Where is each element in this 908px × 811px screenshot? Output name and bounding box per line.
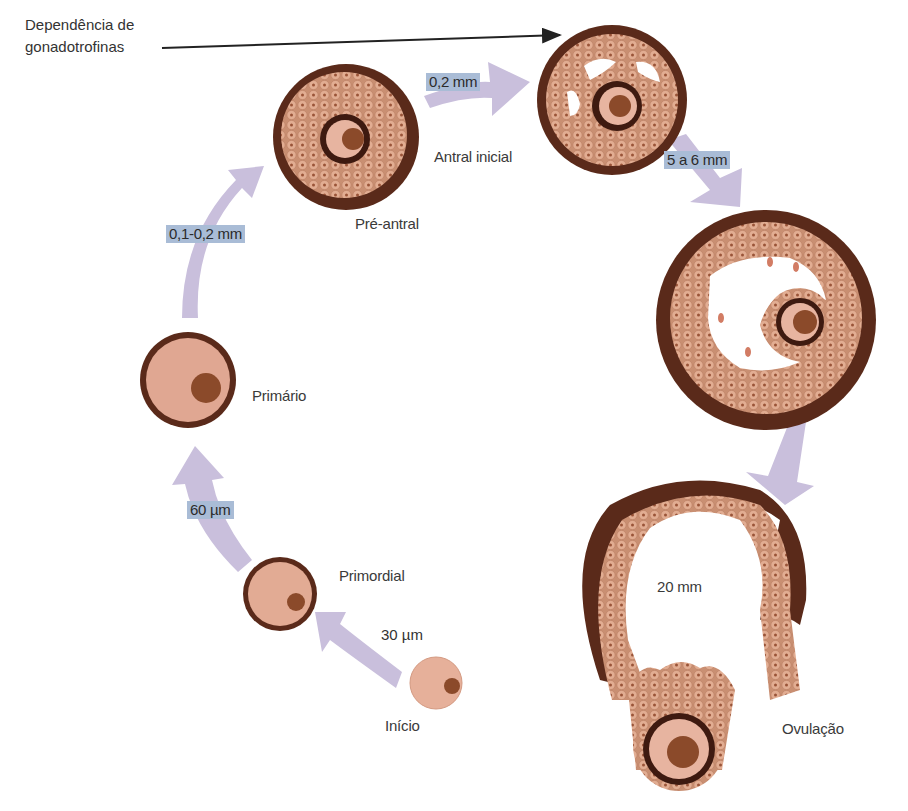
gonadotrophin-pointer-arrow [162,35,560,48]
size-label-30um: 30 µm [381,626,423,643]
stage-label-20mm: 20 mm [657,578,702,595]
stage-label-ovulacao: Ovulação [782,720,844,737]
follicle-antral [656,210,876,430]
size-label-01-02mm: 0,1-0,2 mm [166,225,245,243]
size-label-5-6mm: 5 a 6 mm [664,151,730,169]
gonadotrophin-note-line-1: Dependência de [25,14,134,36]
follicle-primordial [243,557,317,631]
size-label-02mm: 0,2 mm [426,73,480,91]
stage-label-antral-inicial: Antral inicial [434,148,512,165]
stage-label-pre-antral: Pré-antral [355,215,419,232]
follicle-primario [140,332,236,428]
follicle-diagram [0,0,908,811]
arrow-antralinicial-antral [668,134,742,207]
ovulated-oocyte [628,662,735,791]
stage-label-primario: Primário [252,387,306,404]
gonadotrophin-note: Dependência de gonadotrofinas [25,14,134,58]
follicle-pre-antral [273,64,419,210]
stage-label-inicio: Início [385,717,420,734]
gonadotrophin-note-line-2: gonadotrofinas [25,36,134,58]
arrow-inicio-primordial [315,612,402,688]
stage-label-primordial: Primordial [339,567,405,584]
follicle-inicio [410,657,462,709]
size-label-60um: 60 µm [187,501,234,519]
